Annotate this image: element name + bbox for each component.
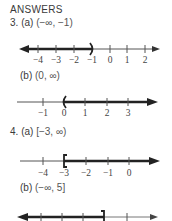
number-line-4b [0,0,172,221]
